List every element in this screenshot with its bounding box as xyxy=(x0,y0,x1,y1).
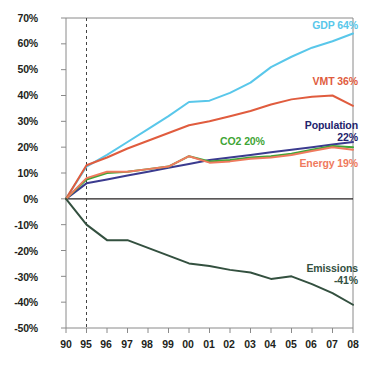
chart-plot-area xyxy=(0,0,381,367)
series-name-population: Population xyxy=(305,119,358,131)
series-label-vmt: VMT 36% xyxy=(255,75,358,87)
series-name-emissions: Emissions xyxy=(306,262,358,274)
x-tick-label: 06 xyxy=(300,338,322,350)
series-label-co2: CO2 20% xyxy=(220,135,265,147)
y-tick-label: 20% xyxy=(0,141,38,153)
x-tick-label: 02 xyxy=(218,338,240,350)
y-tick-label: -50% xyxy=(0,322,38,334)
series-name-co2: CO2 xyxy=(220,135,241,147)
series-value-vmt: 36% xyxy=(337,75,358,87)
series-value-energy: 19% xyxy=(337,157,358,169)
y-tick-label: 40% xyxy=(0,89,38,101)
series-name-gdp: GDP xyxy=(312,19,334,31)
x-tick-label: 96 xyxy=(95,338,117,350)
series-name-vmt: VMT xyxy=(313,75,335,87)
x-tick-label: 00 xyxy=(177,338,199,350)
series-name-energy: Energy xyxy=(299,157,334,169)
series-label-population: Population 22% xyxy=(253,119,358,143)
y-tick-label: 60% xyxy=(0,37,38,49)
series-value-emissions: -41% xyxy=(334,274,358,286)
chart-container: 70% 60% 50% 40% 30% 20% 10% 0% -10% -20%… xyxy=(0,0,381,367)
y-tick-label: -20% xyxy=(0,245,38,257)
series-label-emissions: Emissions -41% xyxy=(253,262,358,286)
x-tick-label: 95 xyxy=(75,338,97,350)
x-tick-label: 99 xyxy=(157,338,179,350)
y-tick-label: -10% xyxy=(0,219,38,231)
x-tick-label: 05 xyxy=(280,338,302,350)
series-value-population: 22% xyxy=(337,131,358,143)
x-tick-label: 97 xyxy=(116,338,138,350)
x-tick-label: 98 xyxy=(136,338,158,350)
series-value-co2: 20% xyxy=(244,135,265,147)
y-tick-label: 70% xyxy=(0,12,38,24)
y-tick-label: 50% xyxy=(0,63,38,75)
x-tick-label: 01 xyxy=(198,338,220,350)
x-tick-label: 03 xyxy=(239,338,261,350)
y-tick-label: 30% xyxy=(0,115,38,127)
x-tick-label: 90 xyxy=(55,338,77,350)
series-line-gdp xyxy=(66,34,353,199)
series-label-gdp: GDP 64% xyxy=(255,19,358,31)
y-tick-label: 0% xyxy=(0,193,38,205)
y-tick-label: 10% xyxy=(0,167,38,179)
series-label-energy: Energy 19% xyxy=(255,157,358,169)
series-value-gdp: 64% xyxy=(337,19,358,31)
x-tick-label: 04 xyxy=(259,338,281,350)
y-tick-label: -30% xyxy=(0,271,38,283)
y-tick-label: -40% xyxy=(0,296,38,308)
x-tick-label: 07 xyxy=(321,338,343,350)
series-line-emissions xyxy=(66,199,353,305)
x-tick-label: 08 xyxy=(342,338,364,350)
